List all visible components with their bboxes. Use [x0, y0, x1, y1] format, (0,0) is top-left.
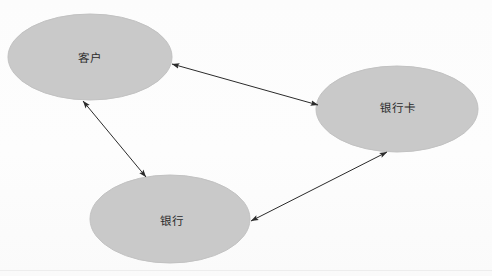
- node-label-bank: 银行: [160, 213, 184, 229]
- node-label-bank-card: 银行卡: [380, 100, 416, 116]
- diagram-graphic: [0, 0, 492, 276]
- node-label-customer: 客户: [78, 50, 102, 66]
- edge-bank-bank-card[interactable]: [251, 152, 387, 221]
- page-bottom-rule: [0, 270, 492, 271]
- edge-customer-bank[interactable]: [83, 101, 146, 177]
- edge-customer-bank-card[interactable]: [172, 64, 318, 105]
- diagram-canvas: 客户银行卡银行: [0, 0, 492, 276]
